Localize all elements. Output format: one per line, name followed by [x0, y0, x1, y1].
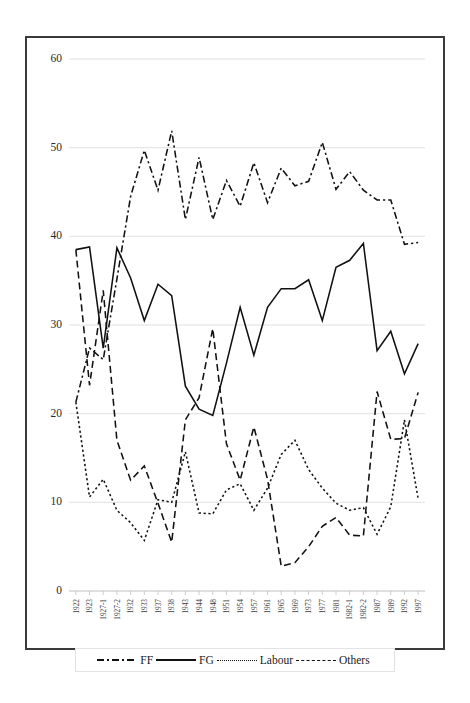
line-chart-plot: 0102030405060192219231927-11927-21932193…	[27, 38, 443, 648]
x-axis-tick-label: 1997	[414, 599, 423, 614]
legend-entry-ff: FF	[97, 654, 156, 666]
legend-label: FG	[199, 654, 214, 666]
y-axis-tick-label: 40	[51, 229, 63, 241]
legend-swatch-dotted-icon	[217, 660, 257, 661]
y-axis-tick-label: 60	[51, 52, 63, 64]
x-axis-tick-label: 1927-1	[99, 599, 108, 620]
series-line-others	[76, 250, 418, 567]
y-axis-tick-label: 30	[51, 318, 63, 330]
legend-label: Others	[339, 654, 370, 666]
x-axis-tick-label: 1982-1	[345, 599, 354, 620]
y-axis-tick-label: 10	[51, 495, 63, 507]
x-axis-tick-label: 1937	[154, 599, 163, 614]
x-axis-tick-label: 1977	[318, 599, 327, 614]
x-axis-tick-label: 1973	[304, 599, 313, 614]
series-line-fg	[76, 243, 418, 415]
y-axis-tick-label: 50	[51, 141, 63, 153]
x-axis-tick-label: 1989	[387, 599, 396, 614]
x-axis-tick-label: 1954	[236, 599, 245, 614]
x-axis-tick-label: 1944	[195, 599, 204, 614]
y-axis-tick-label: 20	[51, 407, 63, 419]
x-axis-tick-label: 1992	[400, 599, 409, 614]
legend-entry-fg: FG	[156, 654, 217, 666]
x-axis-tick-label: 1987	[373, 599, 382, 614]
legend-swatch-dash-dot-icon	[97, 659, 137, 661]
chart-legend: FFFGLabourOthers	[75, 648, 395, 672]
x-axis-tick-label: 1927-2	[113, 599, 122, 620]
x-axis-tick-label: 1961	[263, 599, 272, 614]
x-axis-tick-label: 1923	[85, 599, 94, 614]
legend-entry-others: Others	[296, 654, 373, 666]
x-axis-tick-label: 1922	[72, 599, 81, 614]
legend-label: FF	[140, 654, 153, 666]
series-line-labour	[76, 402, 418, 540]
x-axis-tick-label: 1951	[222, 599, 231, 614]
legend-swatch-solid-icon	[156, 659, 196, 661]
x-axis-tick-label: 1965	[277, 599, 286, 614]
legend-entry-labour: Labour	[217, 654, 296, 666]
x-axis-tick-label: 1933	[140, 599, 149, 614]
y-axis-tick-label: 0	[56, 584, 62, 596]
x-axis-tick-label: 1957	[250, 599, 259, 614]
x-axis-tick-label: 1948	[209, 599, 218, 614]
chart-figure: 0102030405060192219231927-11927-21932193…	[25, 36, 445, 650]
legend-label: Labour	[260, 654, 293, 666]
legend-swatch-dashed-icon	[296, 660, 336, 661]
x-axis-tick-label: 1982-2	[359, 599, 368, 620]
x-axis-tick-label: 1969	[291, 599, 300, 614]
x-axis-tick-label: 1943	[181, 599, 190, 614]
x-axis-tick-label: 1938	[167, 599, 176, 614]
x-axis-tick-label: 1981	[332, 599, 341, 614]
x-axis-tick-label: 1932	[126, 599, 135, 614]
